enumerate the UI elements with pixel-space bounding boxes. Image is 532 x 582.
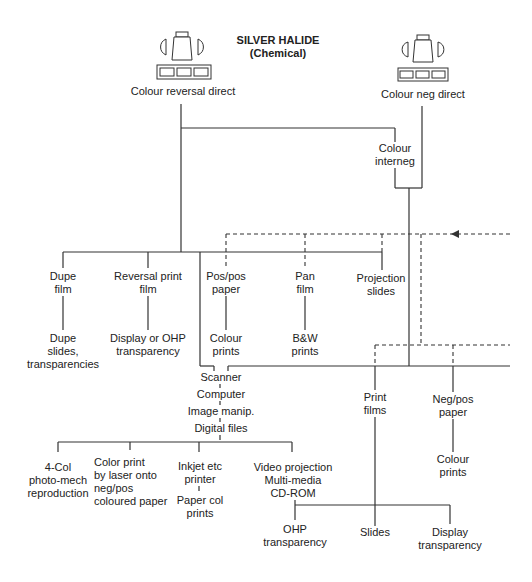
node-slides: Slides [359,526,391,539]
arrow-left-icon [451,230,459,238]
label-line: Neg/pos [433,393,474,406]
node-pan-film: Pan film [294,270,316,296]
label-line: Reversal print [114,270,182,283]
label-line: Pan [295,270,315,283]
label-line: coloured paper [94,495,167,508]
node-reversal-print-film: Reversal print film [113,270,183,296]
label-line: Video projection [254,461,333,474]
node-dupe-film: Dupe film [49,270,77,296]
node-computer: Computer [196,388,246,401]
label-line: Color print [94,456,167,469]
label-line: film [295,283,315,296]
label-line: by laser onto [94,469,167,482]
node-dupe-slides: Dupe slides, transparencies [26,332,100,371]
label-line: Inkjet etc [178,460,222,473]
diagram-title: SILVER HALIDE (Chemical) [237,34,320,60]
label-line: interneg [375,155,415,168]
node-scanner: Scanner [200,371,243,384]
node-projection-slides: Projection slides [356,272,407,298]
node-color-print-laser: Color print by laser onto neg/pos colour… [93,456,168,508]
label-line: film [114,283,182,296]
label-line: Display [418,526,482,539]
label-line: OHP [263,523,327,536]
label-line: transparencies [27,358,99,371]
node-bw-prints: B&W prints [291,332,320,358]
node-digital-files: Digital files [193,422,248,435]
label-line: neg/pos [94,482,167,495]
node-print-films: Print films [363,391,388,417]
label-line: prints [292,345,319,358]
label-line: Print [364,391,387,404]
label-line: slides [357,285,406,298]
source-colour-neg-direct: Colour neg direct [380,88,466,101]
label-line: Display or OHP [110,332,186,345]
label-line: reproduction [27,487,88,500]
camera-film-icon-left [157,32,211,79]
node-video-projection: Video projection Multi-media CD-ROM [253,461,334,500]
node-4-col-reproduction: 4-Col photo-mech reproduction [26,461,89,500]
node-ohp-transparency: OHP transparency [262,523,328,549]
label-line: paper [433,406,474,419]
label-line: Dupe [27,332,99,345]
node-neg-pos-paper: Neg/pos paper [432,393,475,419]
label-line: Colour [375,142,415,155]
label-line: Pos/pos [206,270,246,283]
label-line: paper [206,283,246,296]
node-pos-pos-paper: Pos/pos paper [205,270,247,296]
label-line: photo-mech [27,474,88,487]
node-colour-prints-1: Colour prints [209,332,243,358]
node-colour-interneg: Colour interneg [374,142,416,168]
node-image-manip: Image manip. [187,405,256,418]
source-colour-reversal-direct: Colour reversal direct [130,85,237,98]
label-line: Colour [210,332,242,345]
label-line: Colour [437,453,469,466]
label-line: transparency [110,345,186,358]
label-line: Dupe [50,270,76,283]
silver-halide-workflow-diagram: SILVER HALIDE (Chemical) Colour reversal… [0,0,532,582]
camera-film-icon-right [398,35,448,81]
node-display-ohp-transparency: Display or OHP transparency [109,332,187,358]
label-line: printer [178,473,222,486]
label-line: prints [437,466,469,479]
label-line: film [50,283,76,296]
label-line: 4-Col [27,461,88,474]
label-line: transparency [418,539,482,552]
label-line: CD-ROM [254,487,333,500]
node-colour-prints-2: Colour prints [436,453,470,479]
label-line: prints [210,345,242,358]
label-line: Multi-media [254,474,333,487]
label-line: films [364,404,387,417]
label-line: prints [177,507,223,520]
node-inkjet-printer: Inkjet etc printer [177,460,223,486]
node-paper-col-prints: Paper col prints [176,494,224,520]
label-line: Projection [357,272,406,285]
label-line: Paper col [177,494,223,507]
title-line-1: SILVER HALIDE [237,34,320,47]
title-line-2: (Chemical) [237,47,320,60]
label-line: transparency [263,536,327,549]
label-line: B&W [292,332,319,345]
node-display-transparency: Display transparency [417,526,483,552]
label-line: slides, [27,345,99,358]
